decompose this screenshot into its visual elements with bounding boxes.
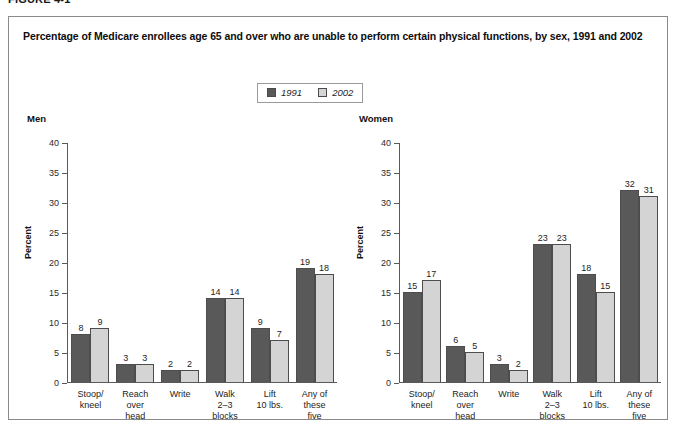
bar-men-3-1991: 14 [206,298,225,382]
bar-men-5-2002: 18 [315,274,334,382]
bar-value-women-2-1991: 3 [497,353,502,363]
bar-group-women-4: 1815Lift 10 lbs. [574,143,618,382]
y-tick-women-15: 15 [394,293,399,294]
bar-men-0-2002: 9 [90,328,109,382]
legend-item-2002: 2002 [318,87,353,98]
chart-men: Men Percent 0510152025303540 89Stoop/ kn… [27,113,347,423]
bar-men-4-2002: 7 [270,340,289,382]
y-tick-label-women-30: 30 [381,198,391,208]
bar-women-2-2002: 2 [509,370,528,382]
y-tick-men-35: 35 [62,173,67,174]
x-category-label-women-0: Stoop/ kneel [398,389,446,411]
bar-women-0-1991: 15 [403,292,422,382]
chart-men-y-axis-label: Percent [23,226,33,259]
chart-women-y-axis-label: Percent [355,226,365,259]
y-tick-men-40: 40 [62,143,67,144]
x-category-label-women-3: Walk 2–3 blocks [528,389,576,422]
bar-value-women-3-1991: 23 [538,233,548,243]
y-tick-men-15: 15 [62,293,67,294]
y-tick-women-0: 0 [394,383,399,384]
x-category-label-men-1: Reach over head [111,389,159,422]
bar-men-3-2002: 14 [225,298,244,382]
y-tick-men-20: 20 [62,263,67,264]
legend-swatch-1991-icon [267,88,276,97]
bar-women-1-2002: 5 [465,352,484,382]
bar-value-women-5-2002: 31 [644,185,654,195]
y-tick-men-25: 25 [62,233,67,234]
y-tick-label-men-25: 25 [49,228,59,238]
bar-value-men-1-2002: 3 [142,353,147,363]
y-tick-label-women-35: 35 [381,168,391,178]
y-tick-label-women-25: 25 [381,228,391,238]
bar-women-5-2002: 31 [639,196,658,382]
figure-number-label: FIGURE 4-1 [8,0,71,5]
y-tick-men-10: 10 [62,323,67,324]
chart-women-plot-area: 0510152025303540 1517Stoop/ kneel65Reach… [399,143,661,383]
bar-group-women-3: 2323Walk 2–3 blocks [531,143,575,382]
figure-panel: Percentage of Medicare enrollees age 65 … [8,16,668,420]
chart-legend: 1991 2002 [257,83,363,103]
bar-value-men-3-2002: 14 [229,287,239,297]
bar-group-women-0: 1517Stoop/ kneel [400,143,444,382]
y-tick-women-35: 35 [394,173,399,174]
y-tick-label-men-5: 5 [54,348,59,358]
y-tick-label-women-10: 10 [381,318,391,328]
y-tick-women-10: 10 [394,323,399,324]
y-tick-label-women-5: 5 [386,348,391,358]
bar-group-women-1: 65Reach over head [444,143,488,382]
x-category-label-men-2: Write [156,389,204,400]
bar-group-men-5: 1918Any of these five [292,143,337,382]
bar-men-4-1991: 9 [251,328,270,382]
x-category-label-men-0: Stoop/ kneel [66,389,114,411]
y-tick-men-0: 0 [62,383,67,384]
bar-group-men-0: 89Stoop/ kneel [68,143,113,382]
legend-swatch-2002-icon [318,88,327,97]
x-category-label-men-3: Walk 2–3 blocks [201,389,249,422]
bar-women-3-1991: 23 [533,244,552,382]
y-tick-label-women-20: 20 [381,258,391,268]
figure-page: FIGURE 4-1 Percentage of Medicare enroll… [0,0,677,429]
bar-men-5-1991: 19 [296,268,315,382]
chart-men-plot-area: 0510152025303540 89Stoop/ kneel33Reach o… [67,143,337,383]
bar-group-men-2: 22Write [158,143,203,382]
x-category-label-women-2: Write [485,389,533,400]
bar-value-women-0-2002: 17 [426,269,436,279]
y-tick-men-5: 5 [62,353,67,354]
y-tick-label-men-0: 0 [54,378,59,388]
bar-women-1-1991: 6 [446,346,465,382]
bar-value-women-4-2002: 15 [600,281,610,291]
legend-label-1991: 1991 [281,87,302,98]
bar-value-men-5-1991: 19 [300,257,310,267]
bar-men-1-2002: 3 [135,364,154,382]
y-tick-women-5: 5 [394,353,399,354]
bar-value-women-2-2002: 2 [516,359,521,369]
bar-value-women-0-1991: 15 [407,281,417,291]
y-tick-women-20: 20 [394,263,399,264]
legend-item-1991: 1991 [267,87,302,98]
bar-women-2-1991: 3 [490,364,509,382]
y-tick-label-men-10: 10 [49,318,59,328]
chart-men-title: Men [27,113,46,124]
bar-group-women-2: 32Write [487,143,531,382]
figure-title: Percentage of Medicare enrollees age 65 … [23,30,653,43]
bar-value-women-4-1991: 18 [581,263,591,273]
bar-women-4-2002: 15 [596,292,615,382]
y-tick-women-40: 40 [394,143,399,144]
bar-group-men-1: 33Reach over head [113,143,158,382]
chart-men-x-axis [67,382,337,383]
y-tick-label-men-15: 15 [49,288,59,298]
bar-value-men-4-1991: 9 [258,317,263,327]
x-category-label-women-4: Lift 10 lbs. [572,389,620,411]
bar-value-men-1-1991: 3 [123,353,128,363]
y-tick-label-men-35: 35 [49,168,59,178]
chart-women: Women Percent 0510152025303540 1517Stoop… [359,113,669,423]
bar-group-men-3: 1414Walk 2–3 blocks [202,143,247,382]
bar-women-0-2002: 17 [422,280,441,382]
x-category-label-women-1: Reach over head [441,389,489,422]
bar-men-2-1991: 2 [161,370,180,382]
y-tick-label-men-20: 20 [49,258,59,268]
y-tick-women-25: 25 [394,233,399,234]
bar-value-women-3-2002: 23 [557,233,567,243]
y-tick-label-women-15: 15 [381,288,391,298]
bar-value-women-1-1991: 6 [453,335,458,345]
